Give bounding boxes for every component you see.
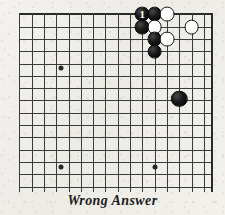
stone-white[interactable]	[184, 20, 199, 35]
board-line-vertical	[105, 13, 106, 192]
board-line-horizontal	[19, 76, 213, 77]
board-line-horizontal	[19, 150, 213, 151]
board-line-vertical	[19, 13, 20, 192]
stone-black[interactable]	[147, 44, 162, 59]
board-line-horizontal	[19, 174, 213, 175]
board-line-vertical	[81, 13, 82, 192]
go-board[interactable]: 1	[0, 0, 225, 196]
board-line-horizontal	[19, 13, 213, 15]
board-line-vertical	[204, 13, 205, 192]
board-line-horizontal	[19, 162, 213, 163]
board-line-horizontal	[19, 64, 213, 65]
board-line-horizontal	[19, 125, 213, 126]
board-line-vertical	[192, 13, 193, 192]
board-line-vertical	[130, 13, 131, 192]
stone-white[interactable]	[159, 7, 174, 22]
board-line-vertical	[118, 13, 119, 192]
board-line-vertical	[142, 13, 143, 192]
board-line-vertical	[93, 13, 94, 192]
board-line-horizontal	[19, 113, 213, 114]
board-line-horizontal	[19, 39, 213, 40]
star-point	[152, 164, 157, 169]
board-line-vertical	[211, 13, 213, 192]
board-line-vertical	[44, 13, 45, 192]
board-line-horizontal	[19, 88, 213, 89]
star-point	[58, 164, 63, 169]
board-line-vertical	[32, 13, 33, 192]
board-line-horizontal	[19, 187, 213, 188]
star-point	[58, 66, 63, 71]
stone-black[interactable]	[171, 91, 187, 107]
board-line-vertical	[56, 13, 57, 192]
board-line-horizontal	[19, 51, 213, 52]
board-line-vertical	[69, 13, 70, 192]
figure-caption: Wrong Answer	[0, 193, 225, 209]
stone-white[interactable]	[159, 32, 174, 47]
board-line-horizontal	[19, 137, 213, 138]
go-problem-figure: 1 Wrong Answer	[0, 0, 225, 215]
